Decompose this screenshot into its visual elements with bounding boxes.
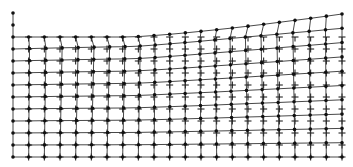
mesh-canvas <box>0 0 353 167</box>
deformed-mesh-figure <box>0 0 353 167</box>
